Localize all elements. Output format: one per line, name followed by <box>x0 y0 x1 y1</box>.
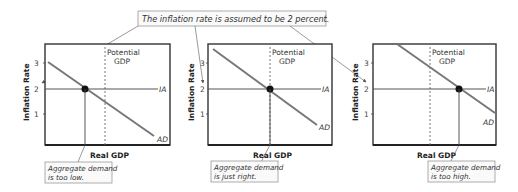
svg-text:is too high.: is too high. <box>431 172 471 181</box>
svg-text:AD: AD <box>156 135 168 144</box>
svg-text:3: 3 <box>364 59 369 68</box>
svg-text:Inflation Rate: Inflation Rate <box>187 63 196 121</box>
panel-too-low: 3 2 1 Inflation Rate Potential GDP IA AD… <box>22 44 170 183</box>
svg-text:GDP: GDP <box>114 57 131 66</box>
svg-text:AD: AD <box>318 123 330 132</box>
svg-text:is just right.: is just right. <box>214 172 257 181</box>
y-axis-label: Inflation Rate <box>22 63 31 121</box>
svg-text:GDP: GDP <box>439 57 456 66</box>
svg-text:Real GDP: Real GDP <box>253 151 292 160</box>
top-callout-text: The inflation rate is assumed to be 2 pe… <box>142 14 329 24</box>
svg-text:2: 2 <box>200 85 205 94</box>
svg-text:Aggregate demand: Aggregate demand <box>213 163 284 172</box>
svg-text:Aggregate demand: Aggregate demand <box>430 163 501 172</box>
svg-text:is too low.: is too low. <box>48 173 84 182</box>
svg-text:Potential: Potential <box>107 48 140 57</box>
svg-text:IA: IA <box>159 85 166 94</box>
svg-text:Aggregate demand: Aggregate demand <box>47 164 118 173</box>
ytick-2: 2 <box>34 85 39 94</box>
svg-text:3: 3 <box>34 59 39 68</box>
panel-too-high: 3 2 1 Inflation Rate Potential GDP IA AD… <box>351 44 501 182</box>
figure: The inflation rate is assumed to be 2 pe… <box>0 0 518 192</box>
svg-text:GDP: GDP <box>279 57 296 66</box>
svg-text:1: 1 <box>364 110 369 119</box>
svg-text:2: 2 <box>364 85 369 94</box>
panel-just-right: 3 2 1 Inflation Rate Potential GDP IA AD… <box>187 44 332 182</box>
svg-text:Potential: Potential <box>432 48 465 57</box>
svg-text:1: 1 <box>34 110 39 119</box>
x-axis-label: Real GDP <box>90 151 129 160</box>
svg-text:IA: IA <box>487 85 494 94</box>
callout-pointer-2 <box>195 26 203 83</box>
svg-text:3: 3 <box>200 59 205 68</box>
svg-text:Inflation Rate: Inflation Rate <box>351 63 360 121</box>
svg-text:IA: IA <box>322 85 329 94</box>
svg-text:Real GDP: Real GDP <box>417 151 456 160</box>
svg-text:AD: AD <box>482 118 494 127</box>
svg-text:Potential: Potential <box>272 48 305 57</box>
svg-text:1: 1 <box>200 110 205 119</box>
